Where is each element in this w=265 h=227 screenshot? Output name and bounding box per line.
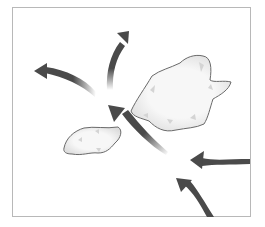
large-blob — [131, 55, 231, 131]
diagram-canvas — [0, 0, 265, 227]
small-blob — [64, 127, 121, 155]
arrow-incoming-right — [190, 151, 250, 169]
arrow-up — [107, 31, 129, 90]
arrow-incoming-bottom — [176, 178, 214, 217]
arrow-left — [34, 63, 96, 97]
